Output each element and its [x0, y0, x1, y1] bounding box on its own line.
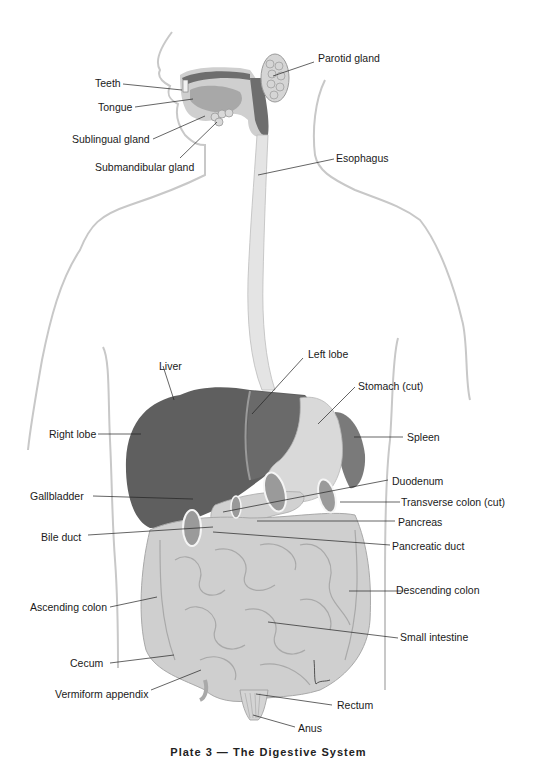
label-left-lobe: Left lobe — [308, 348, 348, 360]
label-tongue: Tongue — [98, 101, 132, 113]
mouth-region — [180, 54, 289, 137]
label-gallbladder: Gallbladder — [30, 490, 84, 502]
label-spleen: Spleen — [407, 431, 440, 443]
label-duodenum: Duodenum — [392, 475, 443, 487]
label-small-intestine: Small intestine — [400, 631, 468, 643]
label-ascending-colon: Ascending colon — [30, 601, 107, 613]
label-anus: Anus — [298, 722, 322, 734]
label-rectum: Rectum — [337, 699, 373, 711]
label-esophagus: Esophagus — [336, 152, 389, 164]
label-transverse-colon-cut: Transverse colon (cut) — [401, 496, 505, 508]
label-pancreatic-duct: Pancreatic duct — [392, 540, 464, 552]
label-cecum: Cecum — [70, 657, 103, 669]
label-stomach-cut: Stomach (cut) — [358, 380, 423, 392]
label-bile-duct: Bile duct — [41, 531, 81, 543]
esophagus-tube — [248, 135, 275, 390]
label-teeth: Teeth — [95, 77, 121, 89]
figure-caption: Plate 3 — The Digestive System — [0, 746, 537, 758]
label-pancreas: Pancreas — [398, 516, 442, 528]
label-sublingual-gland: Sublingual gland — [72, 133, 150, 145]
label-liver: Liver — [159, 360, 182, 372]
label-submandibular-gland: Submandibular gland — [95, 161, 194, 173]
label-parotid-gland: Parotid gland — [318, 52, 380, 64]
label-descending-colon: Descending colon — [396, 584, 479, 596]
label-vermiform-appendix: Vermiform appendix — [55, 688, 148, 700]
label-right-lobe: Right lobe — [49, 428, 96, 440]
